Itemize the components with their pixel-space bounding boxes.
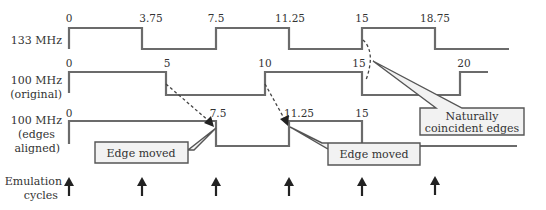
- emulation-label-line1: Emulation: [5, 175, 62, 188]
- row-label-100mhz-aligned: 100 MHz (edges aligned): [11, 114, 62, 155]
- callout-coincident-line2: coincident edges: [425, 122, 520, 135]
- row-label-100mhz-original: 100 MHz (original): [10, 74, 62, 101]
- row-label-aligned-line2: (edges: [18, 128, 55, 141]
- tick-label: 0: [66, 12, 73, 24]
- row-label-aligned-line1: 100 MHz: [11, 114, 62, 127]
- callout-edge-moved-2: Edge moved: [290, 127, 420, 165]
- tick-label: 15: [352, 57, 365, 69]
- tick-label: 18.75: [420, 12, 450, 24]
- callout-edge-moved-2-text: Edge moved: [340, 148, 409, 161]
- tick-label: 0: [66, 57, 73, 69]
- tick-label: 15: [355, 107, 368, 119]
- up-arrow-icon: [137, 177, 147, 196]
- up-arrow-icon: [430, 176, 440, 195]
- ticks-133mhz: 0 3.75 7.5 11.25 15 18.75: [66, 12, 450, 24]
- tick-label: 10: [258, 57, 271, 69]
- up-arrow-icon: [211, 177, 221, 196]
- row-label-133mhz: 133 MHz: [11, 34, 62, 47]
- row-label-133mhz-text: 133 MHz: [11, 34, 62, 47]
- tick-label: 5: [164, 57, 171, 69]
- tick-label: 7.5: [210, 107, 227, 119]
- tick-label: 15: [355, 12, 368, 24]
- emulation-cycle-arrows: [64, 176, 440, 196]
- up-arrow-icon: [357, 177, 367, 196]
- row-label-100mhz-line2: (original): [10, 88, 62, 101]
- ticks-100mhz-original: 0 5 10 15 20: [66, 57, 471, 69]
- callout-edge-moved-1: Edge moved: [95, 128, 216, 163]
- tick-label: 7.5: [208, 12, 225, 24]
- dashed-edge-move-arrow-2: [265, 84, 289, 126]
- emulation-label-line2: cycles: [24, 189, 59, 202]
- waveform-133mhz: [69, 28, 509, 49]
- callout-naturally-coincident-edges: Naturally coincident edges: [373, 61, 524, 135]
- callout-edge-moved-1-text: Edge moved: [107, 147, 176, 160]
- row-label-100mhz-line1: 100 MHz: [11, 74, 62, 87]
- up-arrow-icon: [64, 177, 74, 196]
- up-arrow-icon: [284, 177, 294, 196]
- tick-label: 11.25: [275, 12, 305, 24]
- row-label-aligned-line3: aligned): [14, 142, 60, 155]
- tick-label: 3.75: [139, 12, 162, 24]
- tick-label: 20: [457, 57, 470, 69]
- emulation-cycles-label: Emulation cycles: [5, 175, 62, 202]
- tick-label: 0: [66, 107, 73, 119]
- ticks-100mhz-aligned: 0 7.5 11.25 15: [66, 107, 369, 119]
- clock-alignment-diagram: 133 MHz 100 MHz (original) 100 MHz (edge…: [0, 0, 546, 210]
